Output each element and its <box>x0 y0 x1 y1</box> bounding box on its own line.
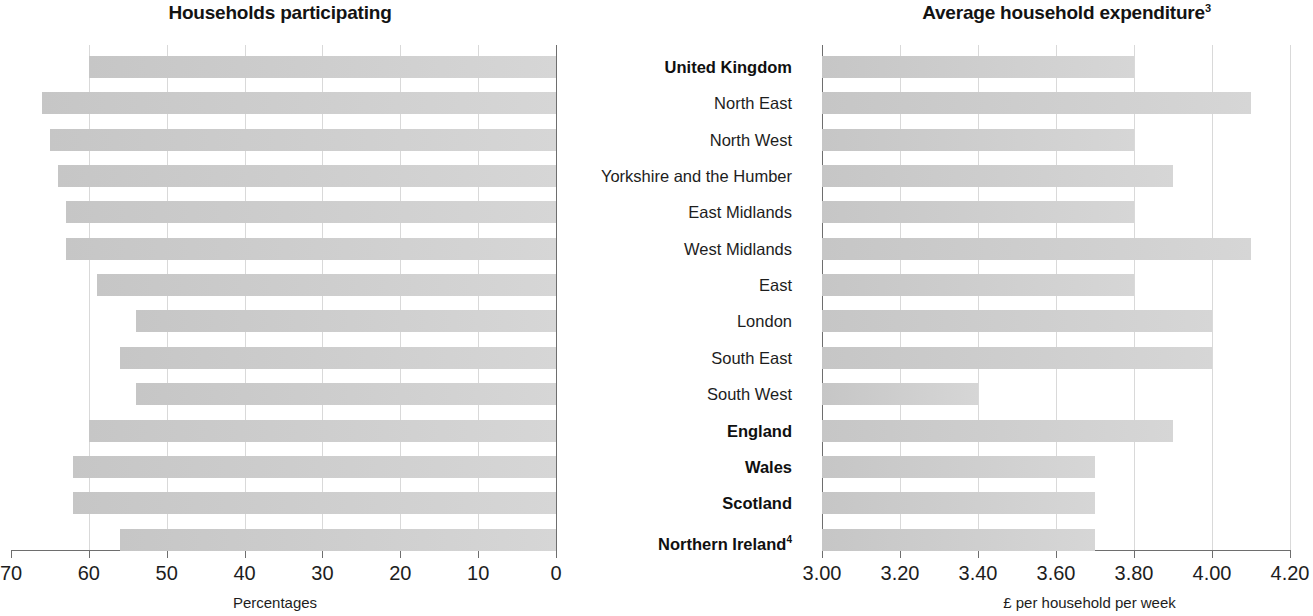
left-chart-title-text: Households participating <box>168 2 391 23</box>
category-label-text: West Midlands <box>684 240 792 258</box>
left-axis-tick-label: 60 <box>78 562 100 585</box>
category-label: North East <box>714 95 792 111</box>
category-label-text: England <box>727 422 792 440</box>
left-axis-tick <box>245 550 246 558</box>
left-axis-tick-label: 50 <box>156 562 178 585</box>
left-axis-tick <box>478 550 479 558</box>
right-axis-tick-label: 3.00 <box>803 562 842 585</box>
right-chart-bar <box>822 347 1212 369</box>
category-label-text: North West <box>710 131 792 149</box>
right-axis-tick-label: 3.80 <box>1115 562 1154 585</box>
right-axis-tick <box>1212 550 1213 558</box>
left-axis-tick-label: 30 <box>311 562 333 585</box>
right-chart-bar <box>822 492 1095 514</box>
right-axis-tick-label: 3.60 <box>1037 562 1076 585</box>
category-label-text: North East <box>714 94 792 112</box>
category-label-text: Yorkshire and the Humber <box>601 167 792 185</box>
right-chart-bar <box>822 238 1251 260</box>
left-chart-bar <box>58 165 556 187</box>
right-axis-tick <box>900 550 901 558</box>
right-chart-bar <box>822 129 1134 151</box>
right-chart-title-superscript: 3 <box>1205 2 1211 14</box>
category-label: West Midlands <box>684 241 792 257</box>
category-label: North West <box>710 132 792 148</box>
right-chart-title: Average household expenditure3 <box>820 2 1313 24</box>
left-chart-bar <box>136 383 556 405</box>
left-axis-tick-label: 70 <box>0 562 22 585</box>
category-label: London <box>737 313 792 329</box>
right-chart-panel: 3.003.203.403.603.804.004.20£ per househ… <box>800 45 1313 550</box>
left-chart-bar <box>50 129 556 151</box>
category-label: South West <box>707 386 792 402</box>
left-axis-tick <box>11 550 12 558</box>
right-chart-title-text: Average household expenditure <box>922 2 1205 23</box>
right-axis-title: £ per household per week <box>833 594 1313 611</box>
right-axis-tick-label: 3.40 <box>959 562 998 585</box>
right-chart-bar <box>822 165 1173 187</box>
right-chart-bar <box>822 420 1173 442</box>
category-label-text: Northern Ireland <box>658 534 786 552</box>
category-label-text: South East <box>711 349 792 367</box>
right-gridline <box>1290 45 1291 550</box>
category-label-superscript: 4 <box>786 534 792 545</box>
right-axis-tick-label: 4.20 <box>1271 562 1310 585</box>
left-chart-title: Households participating <box>120 2 440 24</box>
left-axis-tick <box>556 550 557 558</box>
category-label-column: United KingdomNorth EastNorth WestYorksh… <box>560 45 800 550</box>
left-axis-tick <box>89 550 90 558</box>
category-label: East Midlands <box>688 204 792 220</box>
left-chart-bar <box>89 56 556 78</box>
right-axis-tick-label: 3.20 <box>881 562 920 585</box>
chart-page: Households participating Average househo… <box>0 0 1313 616</box>
left-axis-title: Percentages <box>0 594 565 611</box>
category-label: South East <box>711 350 792 366</box>
right-axis-tick <box>978 550 979 558</box>
right-chart-bar <box>822 274 1134 296</box>
right-chart-bar <box>822 310 1212 332</box>
right-axis-tick <box>1134 550 1135 558</box>
right-axis-tick-label: 4.00 <box>1193 562 1232 585</box>
category-label: East <box>759 277 792 293</box>
category-label: Wales <box>745 459 792 475</box>
category-label-text: Wales <box>745 458 792 476</box>
left-axis-tick-label: 40 <box>233 562 255 585</box>
right-axis-tick <box>1056 550 1057 558</box>
right-chart-bar <box>822 56 1134 78</box>
right-chart-bar <box>822 383 978 405</box>
right-gridline <box>1134 45 1135 550</box>
right-chart-bar <box>822 529 1095 551</box>
category-label-text: Scotland <box>722 494 792 512</box>
left-chart-bar <box>73 492 556 514</box>
left-axis-tick-label: 0 <box>550 562 561 585</box>
left-chart-bar <box>66 238 557 260</box>
left-chart-bar <box>136 310 556 332</box>
category-label-text: United Kingdom <box>665 58 792 76</box>
right-axis-tick <box>1290 550 1291 558</box>
category-label: Yorkshire and the Humber <box>601 168 792 184</box>
left-chart-bar <box>120 347 556 369</box>
left-chart-bar <box>73 456 556 478</box>
right-chart-bar <box>822 92 1251 114</box>
category-label: England <box>727 423 792 439</box>
category-label: United Kingdom <box>665 59 792 75</box>
left-axis-tick <box>400 550 401 558</box>
category-label-text: East <box>759 276 792 294</box>
left-axis-tick <box>322 550 323 558</box>
left-axis-tick-label: 10 <box>467 562 489 585</box>
right-chart-bar <box>822 201 1134 223</box>
category-label: Northern Ireland4 <box>658 532 792 552</box>
left-value-axis <box>556 45 557 550</box>
right-plot-area: 3.003.203.403.603.804.004.20£ per househ… <box>800 45 1313 550</box>
right-gridline <box>1212 45 1213 550</box>
left-plot-area: 706050403020100Percentages <box>0 45 580 550</box>
left-chart-bar <box>89 420 556 442</box>
left-chart-bar <box>42 92 556 114</box>
right-axis-tick <box>822 550 823 558</box>
category-label: Scotland <box>722 495 792 511</box>
category-label-text: East Midlands <box>688 203 792 221</box>
left-axis-tick <box>167 550 168 558</box>
left-axis-tick-label: 20 <box>389 562 411 585</box>
category-label-text: South West <box>707 385 792 403</box>
right-chart-bar <box>822 456 1095 478</box>
left-chart-bar <box>97 274 556 296</box>
